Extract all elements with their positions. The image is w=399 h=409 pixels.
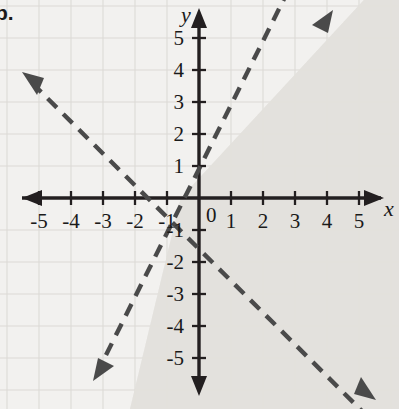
x-tick-label: -2 [126,209,144,233]
y-tick-label: 4 [174,58,185,82]
y-tick-label: 1 [174,154,185,178]
x-tick-label: 3 [290,209,301,233]
y-tick-label: -2 [167,250,185,274]
x-tick-label: -5 [30,209,48,233]
y-tick-label: 5 [174,26,185,50]
y-tick-label: -1 [167,218,185,242]
graph-figure: b. [0,0,399,409]
x-tick-label: -3 [94,209,112,233]
x-tick-label: 2 [258,209,269,233]
x-tick-label: -4 [62,209,80,233]
x-tick-label: 5 [354,209,365,233]
x-axis-label: x [383,196,394,221]
y-tick-label: -5 [167,346,185,370]
y-axis-label: y [179,2,191,27]
y-tick-label: 3 [174,90,185,114]
coordinate-plane: -5 -4 -3 -2 -1 1 2 3 4 5 5 4 3 2 1 -1 -2… [0,0,399,409]
y-tick-label: 2 [174,122,185,146]
y-tick-label: -3 [167,282,185,306]
x-tick-label: 1 [226,209,237,233]
problem-label: b. [0,1,14,25]
origin-label: 0 [206,203,217,227]
x-tick-label: 4 [322,209,333,233]
y-tick-label: -4 [167,314,185,338]
